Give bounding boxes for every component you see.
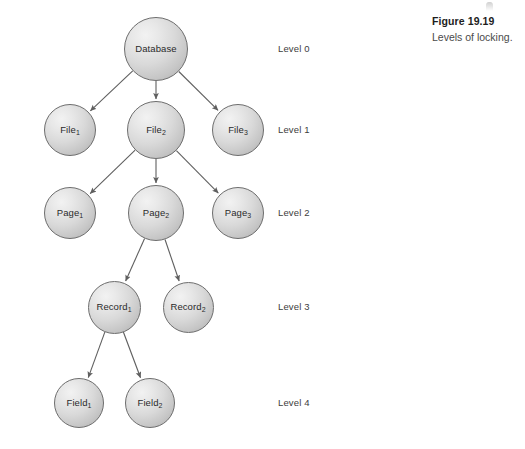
node-label: Page1 bbox=[57, 208, 84, 218]
node-label-subscript: 2 bbox=[162, 129, 166, 136]
node-label-subscript: 3 bbox=[247, 212, 251, 219]
scan-artifact bbox=[486, 2, 493, 11]
level-label-1: Level 1 bbox=[278, 124, 310, 135]
edge-file2-to-page1 bbox=[90, 150, 135, 193]
node-page2[interactable]: Page2 bbox=[128, 185, 184, 241]
node-label-subscript: 1 bbox=[88, 402, 92, 409]
node-label-subscript: 2 bbox=[159, 402, 163, 409]
node-label-subscript: 2 bbox=[202, 306, 206, 313]
node-label-subscript: 1 bbox=[128, 306, 132, 313]
level-label-0: Level 0 bbox=[278, 43, 310, 54]
locking-levels-diagram: DatabaseFile1File2File3Page1Page2Page3Re… bbox=[0, 0, 525, 449]
node-page3[interactable]: Page3 bbox=[212, 187, 264, 239]
node-label: Page3 bbox=[225, 208, 252, 218]
node-label: Record2 bbox=[170, 302, 205, 312]
edge-database-to-file3 bbox=[179, 71, 218, 110]
level-label-4: Level 4 bbox=[278, 397, 310, 408]
node-record1[interactable]: Record1 bbox=[88, 281, 141, 334]
node-label: Database bbox=[135, 44, 176, 54]
node-label-subscript: 1 bbox=[79, 212, 83, 219]
node-label: File3 bbox=[228, 125, 248, 135]
node-file2[interactable]: File2 bbox=[127, 101, 185, 159]
node-label: File2 bbox=[146, 125, 166, 135]
node-database[interactable]: Database bbox=[124, 17, 188, 81]
edge-page2-to-record1 bbox=[126, 239, 145, 281]
node-label-subscript: 1 bbox=[76, 129, 80, 136]
node-label: Field1 bbox=[67, 398, 92, 408]
figure-title: Levels of locking. bbox=[432, 30, 522, 44]
node-file3[interactable]: File3 bbox=[212, 104, 264, 156]
node-field2[interactable]: Field2 bbox=[125, 378, 175, 428]
level-label-2: Level 2 bbox=[278, 207, 310, 218]
edge-record1-to-field1 bbox=[88, 332, 105, 378]
node-page1[interactable]: Page1 bbox=[44, 187, 96, 239]
edge-file2-to-page3 bbox=[176, 151, 218, 193]
node-record2[interactable]: Record2 bbox=[163, 282, 214, 333]
edge-record1-to-field2 bbox=[123, 332, 140, 378]
edge-page2-to-record2 bbox=[165, 240, 179, 281]
level-label-3: Level 3 bbox=[278, 301, 310, 312]
edge-database-to-file1 bbox=[90, 71, 132, 111]
node-label: Field2 bbox=[138, 398, 163, 408]
node-field1[interactable]: Field1 bbox=[54, 378, 104, 428]
node-label: File1 bbox=[60, 125, 80, 135]
node-label-subscript: 3 bbox=[244, 129, 248, 136]
figure-caption: Figure 19.19 Levels of locking. bbox=[432, 14, 522, 44]
node-label: Record1 bbox=[96, 302, 131, 312]
node-label: Page2 bbox=[143, 208, 170, 218]
node-label-subscript: 2 bbox=[165, 212, 169, 219]
node-file1[interactable]: File1 bbox=[44, 104, 96, 156]
figure-number: Figure 19.19 bbox=[432, 14, 522, 28]
